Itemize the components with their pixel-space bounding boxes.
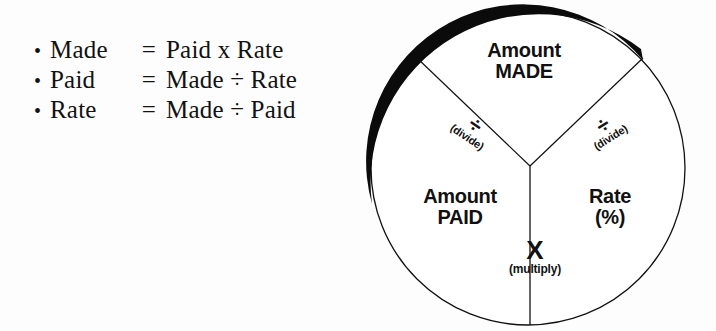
formula-list: • Made = Paid x Rate • Paid = Made ÷ Rat… [34, 36, 344, 126]
formula-left-term: Rate [50, 96, 132, 124]
circle-diagram: Amount MADE Amount PAID Rate (%) ÷ (divi… [360, 0, 716, 331]
formula-row: • Paid = Made ÷ Rate [34, 66, 344, 96]
formula-right-expression: Made ÷ Rate [166, 66, 344, 94]
bullet-icon: • [34, 101, 50, 121]
multiply-icon: X [509, 239, 561, 262]
formula-row: • Made = Paid x Rate [34, 36, 344, 66]
operator-multiply-label: (multiply) [509, 263, 561, 277]
segment-label-made: Amount MADE [464, 40, 584, 82]
segment-label-made-line1: Amount [487, 39, 561, 61]
formula-left-term: Paid [50, 66, 132, 94]
segment-label-paid-line2: PAID [437, 206, 482, 228]
segment-label-paid: Amount PAID [400, 186, 520, 228]
bullet-icon: • [34, 41, 50, 61]
segment-label-rate-line2: (%) [595, 206, 625, 228]
segment-label-rate: Rate (%) [560, 186, 660, 228]
formula-right-expression: Paid x Rate [166, 36, 344, 64]
segment-label-made-line2: MADE [495, 60, 553, 82]
formula-row: • Rate = Made ÷ Paid [34, 96, 344, 126]
formula-left-term: Made [50, 36, 132, 64]
segment-label-rate-line1: Rate [589, 185, 631, 207]
formula-equals-sign: = [132, 96, 166, 124]
bullet-icon: • [34, 71, 50, 91]
page-root: • Made = Paid x Rate • Paid = Made ÷ Rat… [0, 0, 716, 331]
segment-label-paid-line1: Amount [423, 185, 497, 207]
formula-equals-sign: = [132, 36, 166, 64]
formula-equals-sign: = [132, 66, 166, 94]
formula-right-expression: Made ÷ Paid [166, 96, 344, 124]
